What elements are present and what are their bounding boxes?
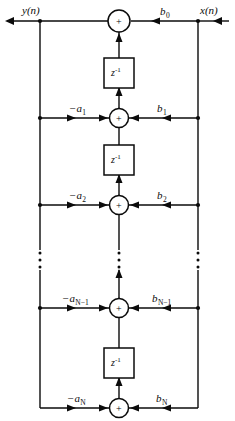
ellipsis-left-dot-2	[39, 259, 42, 262]
ellipsis-center-dot-2	[118, 259, 121, 262]
ellipsis-right-dot-1	[197, 252, 200, 255]
delay-1-label: z-1	[111, 67, 121, 78]
adder-1-plus: +	[116, 113, 122, 124]
coef-bN-base: b	[156, 392, 162, 404]
arrow-adderN1-right-in	[130, 305, 139, 312]
coef-b1-label: b1	[157, 103, 166, 114]
coef-aN-label: −aN	[67, 393, 85, 404]
input-signal-label: x(n)	[200, 5, 218, 16]
delay-3-label: z-1	[111, 357, 121, 368]
coef-b2-label: b2	[157, 190, 166, 201]
arrow-adderN1-left-in	[99, 305, 108, 312]
coef-a2-sub: 2	[82, 195, 86, 204]
ellipsis-left-dot-3	[39, 266, 42, 269]
output-signal-label: y(n)	[22, 5, 40, 16]
coef-b2-base: b	[157, 189, 163, 201]
adder-3-plus: +	[116, 303, 122, 314]
node-right-rail-rowN1	[196, 306, 200, 310]
arrow-tap-b0	[151, 18, 160, 25]
adder-2-plus: +	[116, 200, 122, 211]
coef-b1-base: b	[157, 102, 163, 114]
coef-a1-label: −a1	[69, 103, 86, 114]
delay-3-exponent: -1	[115, 356, 121, 364]
coef-aN1-sub: N−1	[75, 298, 88, 307]
coef-a2-base: −a	[69, 189, 82, 201]
node-right-rail-row1	[196, 116, 200, 120]
coef-bN-label: bN	[156, 393, 167, 404]
coef-bN-sub: N	[162, 398, 167, 407]
arrow-adder2-left-in	[99, 202, 108, 209]
ellipsis-dots	[39, 252, 200, 269]
coef-aN1-base: −a	[62, 292, 75, 304]
adder-4-plus: +	[116, 403, 122, 414]
coef-a2-label: −a2	[69, 190, 86, 201]
coef-b0-label: b0	[160, 6, 169, 17]
coef-aN1-label: −aN−1	[62, 293, 88, 304]
node-left-rail-row1	[38, 116, 42, 120]
ellipsis-right-dot-3	[197, 266, 200, 269]
arrow-output-yn	[5, 17, 14, 25]
ellipsis-left-dot-1	[39, 252, 42, 255]
coef-a1-base: −a	[69, 102, 82, 114]
node-left-rail-row2	[38, 203, 42, 207]
arrow-ellipsis-down	[116, 269, 123, 278]
delay-2-label: z-1	[111, 154, 121, 165]
node-left-rail-rowN1	[38, 306, 42, 310]
node-right-rail-top	[196, 19, 200, 23]
coef-b0-base: b	[160, 5, 166, 17]
coef-b1-sub: 1	[163, 108, 167, 117]
coef-bN1-sub: N−1	[158, 298, 171, 307]
ellipsis-center-dot-3	[118, 266, 121, 269]
coef-b2-sub: 2	[163, 195, 167, 204]
arrow-adder1-right-in	[130, 115, 139, 122]
ellipsis-right-dot-2	[197, 259, 200, 262]
arrow-adder1-left-in	[99, 115, 108, 122]
arrow-tap-aN	[67, 405, 76, 412]
arrow-adder0-bottom-in	[116, 33, 123, 42]
coef-bN1-label: bN−1	[152, 293, 171, 304]
delay-2-exponent: -1	[115, 153, 121, 161]
ellipsis-center-dot-1	[118, 252, 121, 255]
arrow-input-xn	[213, 17, 222, 25]
coef-b0-sub: 0	[166, 11, 170, 20]
coef-aN-base: −a	[67, 392, 80, 404]
arrow-adderN-right-in	[130, 405, 139, 412]
signal-flow-diagram: + + + + + z-1 z-1 z-1 y(n) x(n) b0 −a1 b…	[0, 0, 235, 421]
coef-aN-sub: N	[80, 398, 85, 407]
node-left-rail-top	[38, 19, 42, 23]
arrow-adderN-left-in	[99, 405, 108, 412]
adder-0-plus: +	[116, 16, 122, 27]
coef-a1-sub: 1	[82, 108, 86, 117]
arrow-tap-a1	[67, 115, 76, 122]
delay-1-exponent: -1	[115, 66, 121, 74]
arrow-adder2-right-in	[130, 202, 139, 209]
coef-bN1-base: b	[152, 292, 158, 304]
arrow-tap-a2	[67, 202, 76, 209]
node-right-rail-row2	[196, 203, 200, 207]
